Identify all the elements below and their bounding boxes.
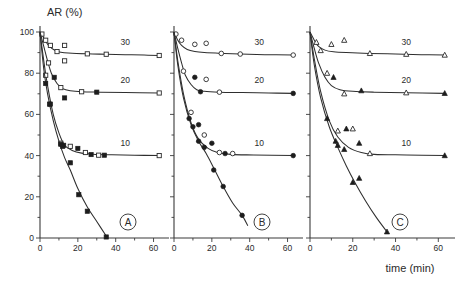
marker-A-unlabeled-6 xyxy=(85,209,89,213)
marker-B-10-1 xyxy=(196,122,201,127)
curve-label-A-30: 30 xyxy=(120,37,130,47)
marker-B-10-5 xyxy=(223,151,228,156)
marker-B-30-3 xyxy=(204,41,209,46)
marker-B-30-4 xyxy=(219,51,224,56)
marker-A-30-3 xyxy=(55,49,59,53)
x-tick-label-C-0: 0 xyxy=(308,243,313,253)
marker-A-10-10 xyxy=(157,154,161,158)
marker-B-10-7 xyxy=(291,153,296,158)
marker-C-unlabeled-3 xyxy=(342,147,347,152)
marker-B-unlabeled-1 xyxy=(191,124,196,129)
marker-A-unlabeled-0 xyxy=(44,81,48,85)
marker-A-30-6 xyxy=(85,52,89,56)
marker-B-30-6 xyxy=(291,53,296,58)
y-tick-label-0: 0 xyxy=(29,233,34,243)
x-tick-label-C-20: 20 xyxy=(348,243,358,253)
marker-A-unlabeled-7 xyxy=(104,235,108,239)
marker-A-unlabeled-3 xyxy=(61,144,65,148)
marker-B-30-1 xyxy=(179,38,184,43)
x-tick-label-B-40: 40 xyxy=(245,243,255,253)
curve-label-B-20: 20 xyxy=(254,75,264,85)
y-tick-label-40: 40 xyxy=(25,151,35,161)
x-tick-label-B-60: 60 xyxy=(283,243,293,253)
marker-C-30-2 xyxy=(329,42,334,47)
marker-C-20-3 xyxy=(359,88,364,93)
curve-B-30 xyxy=(174,32,293,55)
x-axis-title: time (min) xyxy=(386,262,435,274)
marker-C-10-3 xyxy=(357,140,362,145)
marker-B-unlabeled-6 xyxy=(240,213,245,218)
marker-C-10-0 xyxy=(335,128,340,133)
marker-C-20-1 xyxy=(331,75,336,80)
marker-A-10-5 xyxy=(76,146,80,150)
marker-A-10-6 xyxy=(83,150,87,154)
marker-A-unlabeled-5 xyxy=(77,193,81,197)
marker-B-unlabeled-0 xyxy=(187,116,192,121)
x-tick-label-B-20: 20 xyxy=(207,243,217,253)
marker-B-10-6 xyxy=(230,151,235,156)
x-tick-label-C-60: 60 xyxy=(434,243,444,253)
panel-badge-label-A: A xyxy=(125,217,132,228)
curve-B-unlabeled xyxy=(174,32,248,226)
marker-A-30-7 xyxy=(104,52,108,56)
y-axis-title: AR (%) xyxy=(47,6,82,18)
marker-A-20-6 xyxy=(157,91,161,95)
curve-label-B-10: 10 xyxy=(254,138,264,148)
marker-A-20-3 xyxy=(63,96,67,100)
x-tick-label-C-40: 40 xyxy=(391,243,401,253)
x-tick-label-A-20: 20 xyxy=(73,243,83,253)
marker-B-10-0 xyxy=(189,110,194,115)
curve-B-20 xyxy=(174,32,293,93)
marker-C-20-0 xyxy=(325,70,330,75)
marker-B-30-2 xyxy=(193,42,198,47)
curve-label-A-20: 20 xyxy=(120,75,130,85)
marker-A-30-5 xyxy=(63,59,67,63)
panel-badge-label-B: B xyxy=(259,217,266,228)
panel-A: 0204060801000204060302010A xyxy=(20,26,169,253)
marker-A-20-1 xyxy=(52,75,56,79)
marker-A-10-4 xyxy=(68,144,72,148)
curve-label-C-10: 10 xyxy=(401,138,411,148)
marker-B-unlabeled-5 xyxy=(221,184,226,189)
marker-B-10-4 xyxy=(217,150,222,155)
marker-C-10-1 xyxy=(344,126,349,131)
curve-A-20 xyxy=(40,32,159,93)
x-tick-label-A-0: 0 xyxy=(38,243,43,253)
marker-A-10-8 xyxy=(97,153,101,157)
x-tick-label-A-40: 40 xyxy=(111,243,121,253)
marker-C-30-3 xyxy=(342,37,347,42)
marker-A-10-9 xyxy=(102,153,106,157)
curve-C-10 xyxy=(310,32,445,156)
marker-B-10-3 xyxy=(210,141,215,146)
marker-A-20-5 xyxy=(95,90,99,94)
x-tick-label-B-0: 0 xyxy=(172,243,177,253)
curve-C-20 xyxy=(310,32,445,93)
marker-C-unlabeled-0 xyxy=(325,116,330,121)
marker-A-30-4 xyxy=(63,43,67,47)
marker-B-20-2 xyxy=(204,77,209,82)
x-tick-label-A-60: 60 xyxy=(149,243,159,253)
panel-badge-label-C: C xyxy=(396,217,403,228)
multi-panel-decay-chart: AR (%)time (min)020406080100020406030201… xyxy=(0,0,464,281)
marker-A-30-2 xyxy=(48,43,52,47)
marker-A-unlabeled-1 xyxy=(47,102,51,106)
panel-C: 0204060302010C xyxy=(306,26,455,253)
marker-B-20-4 xyxy=(217,90,222,95)
marker-B-20-5 xyxy=(291,91,296,96)
marker-C-30-1 xyxy=(318,48,323,53)
marker-A-10-7 xyxy=(89,152,93,156)
y-tick-label-80: 80 xyxy=(25,68,35,78)
marker-C-10-4 xyxy=(367,151,372,156)
marker-A-30-1 xyxy=(44,38,48,42)
y-tick-label-20: 20 xyxy=(25,192,35,202)
curve-C-unlabeled xyxy=(310,32,387,232)
marker-C-20-2 xyxy=(342,91,347,96)
marker-B-10-2 xyxy=(202,133,207,138)
marker-C-unlabeled-5 xyxy=(357,175,362,180)
marker-A-20-2 xyxy=(59,86,63,90)
marker-B-unlabeled-4 xyxy=(211,168,216,173)
panel-B: 0204060302010B xyxy=(170,26,303,253)
y-tick-label-60: 60 xyxy=(25,109,35,119)
marker-B-20-0 xyxy=(181,69,186,74)
marker-C-10-2 xyxy=(350,126,355,131)
